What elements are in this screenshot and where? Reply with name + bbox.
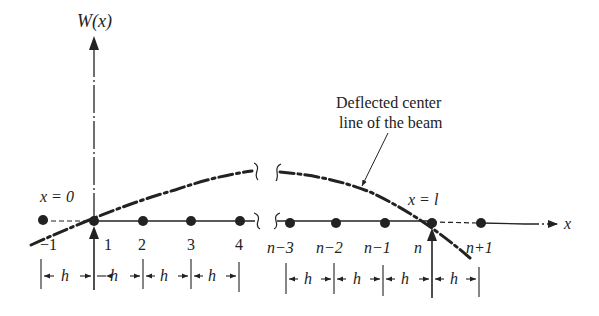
node-n-minus-1	[380, 218, 390, 228]
node-label: n	[414, 239, 422, 256]
node-4	[235, 216, 245, 226]
curve-break-left-icon	[254, 163, 258, 180]
support-arrow-left-icon	[89, 226, 99, 239]
node-label: 4	[235, 236, 243, 253]
node-label: −1	[40, 236, 57, 253]
node-n-minus-2	[331, 218, 341, 228]
x-axis-label: x	[563, 215, 571, 232]
node-label: 3	[187, 236, 195, 253]
spacing-label: h	[401, 270, 409, 287]
node-n-plus-1	[476, 218, 486, 228]
spacing-label: h	[304, 270, 312, 287]
node-label: n−3	[267, 239, 294, 256]
beam-axis-left	[43, 213, 260, 229]
y-axis-arrowhead-icon	[89, 36, 99, 50]
node-label: 2	[138, 236, 146, 253]
y-axis	[89, 36, 99, 290]
left-boundary-label: x = 0	[39, 188, 74, 205]
node-minus-1	[38, 215, 48, 225]
annotation-line-2: line of the beam	[339, 114, 443, 131]
node-n	[427, 218, 437, 228]
node-labels: −1 1 2 3 4 n−3 n−2 n−1 n n+1	[40, 236, 493, 256]
spacing-label: h	[110, 267, 118, 284]
node-label: n+1	[466, 239, 493, 256]
annotation-pointer	[362, 133, 388, 186]
spacing-label: h	[208, 267, 216, 284]
beam-deflection-diagram: W(x) x Deflected center line of the beam	[0, 0, 599, 316]
deflected-center-line	[31, 171, 470, 258]
node-n-minus-3	[285, 218, 295, 228]
annotation-line-1: Deflected center	[336, 94, 442, 111]
node-label: 1	[104, 236, 112, 253]
spacing-label: h	[450, 270, 458, 287]
node-2	[138, 216, 148, 226]
right-boundary-label: x = l	[407, 191, 439, 208]
spacing-label: h	[160, 267, 168, 284]
spacing-label: h	[353, 270, 361, 287]
node-3	[186, 216, 196, 226]
node-label: n−2	[316, 239, 343, 256]
node-0	[89, 216, 99, 226]
spacing-label: h	[61, 267, 69, 284]
y-axis-label: W(x)	[77, 11, 112, 32]
node-label: n−1	[364, 239, 391, 256]
